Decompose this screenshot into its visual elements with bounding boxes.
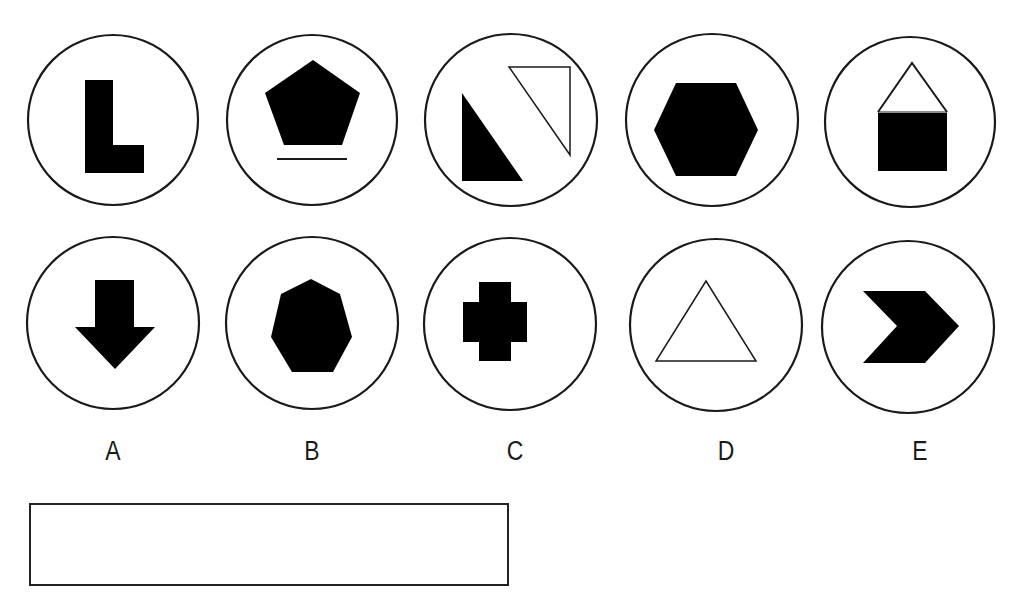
option-d-bottom-circle[interactable] — [630, 239, 802, 411]
option-a-figures[interactable] — [27, 35, 199, 409]
option-d-figures[interactable] — [626, 34, 802, 411]
option-label-c: C — [498, 436, 532, 467]
option-label-b: B — [295, 436, 329, 467]
option-label-a: A — [96, 436, 130, 467]
option-e-figures[interactable] — [822, 37, 995, 413]
option-b-figures[interactable] — [226, 35, 398, 409]
answer-box[interactable] — [29, 503, 509, 586]
hexagon-icon — [654, 83, 758, 176]
filled-square-icon — [878, 113, 947, 171]
option-c-figures[interactable] — [424, 34, 597, 410]
option-label-e: E — [903, 436, 937, 467]
option-label-d: D — [709, 436, 743, 467]
